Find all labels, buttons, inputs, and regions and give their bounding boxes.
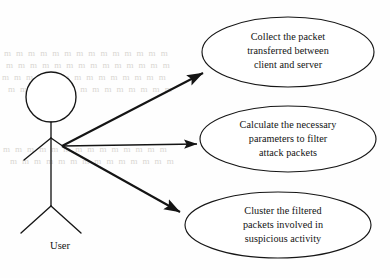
association-actor-to-collect-packet — [62, 73, 203, 146]
use-case-line-3: suspicious activity — [245, 233, 322, 244]
use-case-line-3: client and server — [254, 59, 323, 70]
use-case-line-1: Calculate the necessary — [240, 119, 338, 130]
actor-label: User — [50, 240, 70, 251]
actor-user: User — [21, 72, 81, 251]
actor-head-icon — [26, 72, 76, 122]
use-case-cluster-packets[interactable]: Cluster the filtered packets involved in… — [185, 192, 371, 258]
actor-right-leg — [51, 206, 81, 233]
use-case-line-3: attack packets — [259, 147, 317, 158]
use-case-diagram: m m m m m m m m m m m m m m m m m m m m … — [0, 0, 390, 278]
use-case-line-1: Cluster the filtered — [244, 205, 321, 216]
use-case-line-2: parameters to filter — [249, 133, 328, 144]
association-actor-to-calculate-parameters — [62, 144, 197, 146]
actor-left-arm — [24, 138, 51, 160]
use-case-collect-packet[interactable]: Collect the packet transferred between c… — [202, 17, 374, 87]
association-actor-to-cluster-packets — [62, 146, 180, 212]
use-case-line-2: packets involved in — [243, 219, 323, 230]
actor-left-leg — [21, 206, 51, 233]
use-case-line-1: Collect the packet — [251, 31, 326, 42]
association-lines — [62, 73, 203, 212]
use-case-line-2: transferred between — [247, 45, 329, 56]
use-case-calculate-parameters[interactable]: Calculate the necessary parameters to fi… — [200, 106, 376, 172]
